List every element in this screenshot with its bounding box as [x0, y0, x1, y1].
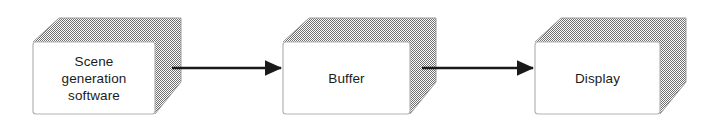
node-display[interactable]	[535, 18, 686, 114]
block-diagram: Scene generation software Buffer Display	[0, 0, 709, 138]
node-face-display	[535, 42, 660, 114]
node-scene-generation-software[interactable]	[33, 18, 181, 114]
diagram-canvas	[0, 0, 709, 138]
node-face-buffer	[283, 42, 410, 114]
node-buffer[interactable]	[283, 18, 436, 114]
node-face-scene-generation-software	[33, 42, 155, 114]
